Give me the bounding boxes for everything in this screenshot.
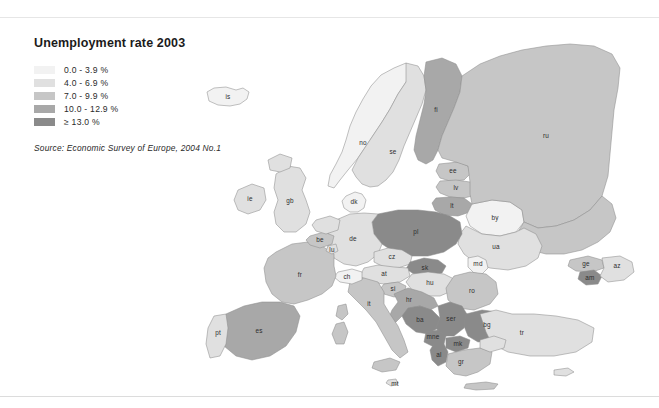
country-label-gb: gb — [286, 197, 294, 205]
map-figure: Unemployment rate 2003 0.0 - 3.9 % 4.0 -… — [0, 0, 659, 408]
country-pt — [206, 314, 228, 358]
legend-swatch-3 — [34, 105, 55, 113]
country-fr-corsica — [336, 304, 348, 320]
country-label-lv: lv — [453, 184, 459, 191]
country-label-ru: ru — [543, 132, 549, 139]
country-label-ie: ie — [247, 195, 253, 202]
legend-label-0: 0.0 - 3.9 % — [64, 65, 108, 75]
country-label-is: is — [225, 93, 230, 100]
country-label-az: az — [613, 262, 620, 269]
country-label-ua: ua — [492, 243, 500, 250]
legend-swatch-4 — [34, 118, 55, 126]
country-label-ser: ser — [446, 315, 456, 322]
country-label-hu: hu — [426, 279, 434, 286]
country-label-pl: pl — [413, 228, 418, 236]
country-label-am: am — [585, 274, 594, 281]
country-label-no: no — [359, 139, 367, 146]
country-it-sardinia — [332, 322, 348, 344]
country-label-be: be — [316, 236, 324, 243]
country-label-ch: ch — [343, 273, 350, 280]
country-label-by: by — [491, 214, 499, 222]
country-label-de: de — [349, 235, 357, 242]
country-label-si: si — [390, 285, 395, 292]
country-label-fi: fi — [434, 106, 438, 113]
bottom-divider — [0, 396, 659, 397]
country-label-ro: ro — [469, 287, 475, 294]
country-label-lu: lu — [329, 246, 335, 253]
country-label-tr: tr — [520, 329, 525, 336]
legend-swatch-0 — [34, 66, 55, 74]
country-label-cz: cz — [389, 253, 396, 260]
country-label-pt: pt — [215, 329, 221, 337]
europe-choropleth-map: is no se fi dk ee lv lt by ru ua md pl d… — [150, 14, 650, 396]
legend-label-1: 4.0 - 6.9 % — [64, 78, 108, 88]
country-label-mt: mt — [391, 380, 399, 387]
country-cy — [554, 368, 574, 376]
country-label-hr: hr — [406, 296, 413, 303]
legend-label-4: ≥ 13.0 % — [64, 117, 100, 127]
country-label-mne: mne — [426, 333, 439, 340]
country-it-sicily — [372, 358, 400, 372]
country-label-dk: dk — [350, 198, 358, 205]
country-label-gr: gr — [458, 358, 465, 366]
legend-label-2: 7.0 - 9.9 % — [64, 91, 108, 101]
legend-swatch-1 — [34, 79, 55, 87]
legend-label-3: 10.0 - 12.9 % — [64, 104, 118, 114]
country-az — [600, 256, 634, 282]
country-label-al: al — [436, 351, 441, 358]
country-label-md: md — [473, 260, 483, 267]
country-label-at: at — [381, 270, 387, 277]
country-label-lt: lt — [450, 202, 454, 209]
country-label-fr: fr — [298, 271, 303, 278]
country-label-sk: sk — [422, 264, 429, 271]
country-gr — [446, 348, 492, 376]
country-gr-crete — [464, 382, 498, 390]
country-label-bg: bg — [483, 321, 491, 329]
legend-swatch-2 — [34, 92, 55, 100]
country-label-ge: ge — [582, 260, 590, 268]
country-label-ba: ba — [416, 316, 424, 323]
country-label-es: es — [255, 327, 262, 334]
country-label-ee: ee — [449, 167, 457, 174]
country-label-se: se — [389, 148, 396, 155]
country-label-it: it — [367, 300, 371, 307]
country-label-mk: mk — [454, 340, 464, 347]
